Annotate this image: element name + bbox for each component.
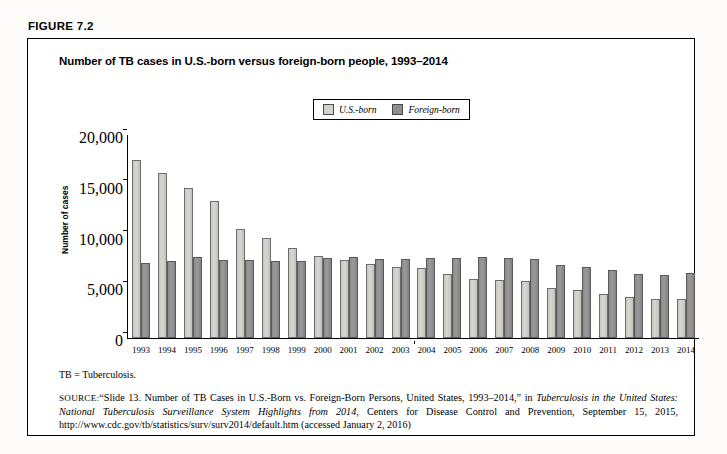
x-tick-label: 2009 <box>547 345 565 355</box>
x-tick-label: 2003 <box>392 345 410 355</box>
bar-foreign-born-1999 <box>297 261 306 338</box>
x-tick-2000: 2000 <box>310 341 336 355</box>
bar-foreign-born-2008 <box>530 259 539 338</box>
bar-group-2011 <box>595 135 621 338</box>
bar-group-1998 <box>258 135 284 338</box>
bar-us-born-2000 <box>314 256 323 338</box>
x-axis-line <box>127 338 699 339</box>
figure-frame: Number of TB cases in U.S.-born versus f… <box>27 38 695 436</box>
x-tick-1994: 1994 <box>154 341 180 355</box>
bar-foreign-born-1998 <box>271 261 280 338</box>
x-tick-label: 2008 <box>521 345 539 355</box>
bar-foreign-born-1994 <box>167 261 176 338</box>
x-tick-2001: 2001 <box>336 341 362 355</box>
x-tick-label: 2014 <box>677 345 695 355</box>
x-tick-label: 2002 <box>366 345 384 355</box>
bar-foreign-born-2001 <box>349 257 358 338</box>
bar-foreign-born-2014 <box>686 273 695 338</box>
x-tick-label: 2001 <box>340 345 358 355</box>
x-tick-label: 1997 <box>236 345 254 355</box>
x-tick-label: 2005 <box>443 345 461 355</box>
bar-foreign-born-2010 <box>582 267 591 338</box>
x-tick-2008: 2008 <box>517 341 543 355</box>
bar-foreign-born-1993 <box>141 263 150 338</box>
x-tick-mark <box>414 341 415 344</box>
bar-foreign-born-2012 <box>634 274 643 338</box>
x-tick-2014: 2014 <box>673 341 699 355</box>
x-tick-2007: 2007 <box>491 341 517 355</box>
bar-us-born-2004 <box>417 268 426 338</box>
bar-us-born-1996 <box>210 201 219 338</box>
bar-us-born-2008 <box>521 281 530 338</box>
x-tick-label: 2011 <box>599 345 617 355</box>
x-tick-label: 1999 <box>288 345 306 355</box>
bar-foreign-born-2009 <box>556 265 565 338</box>
bar-group-2014 <box>673 135 699 338</box>
x-tick-label: 2006 <box>469 345 487 355</box>
bar-us-born-2006 <box>469 279 478 338</box>
y-tick-label: 5,000 <box>87 281 123 298</box>
bar-foreign-born-2006 <box>478 257 487 338</box>
bar-group-2009 <box>543 135 569 338</box>
x-tick-1997: 1997 <box>232 341 258 355</box>
bar-group-1999 <box>284 135 310 338</box>
bar-foreign-born-2013 <box>660 275 669 338</box>
x-tick-label: 1994 <box>158 345 176 355</box>
bar-group-2001 <box>336 135 362 338</box>
figure-label: FIGURE 7.2 <box>28 20 94 32</box>
bar-us-born-2002 <box>366 264 375 338</box>
bar-group-1995 <box>180 135 206 338</box>
bar-us-born-2001 <box>340 260 349 338</box>
bar-us-born-2009 <box>547 288 556 338</box>
bar-group-1997 <box>232 135 258 338</box>
y-tick-label: 10,000 <box>79 231 123 248</box>
bar-group-2013 <box>647 135 673 338</box>
x-tick-2010: 2010 <box>569 341 595 355</box>
x-tick-label: 2012 <box>625 345 643 355</box>
bar-foreign-born-2005 <box>452 258 461 338</box>
x-tick-1995: 1995 <box>180 341 206 355</box>
y-tick-label: 0 <box>115 332 123 349</box>
bar-foreign-born-1995 <box>193 257 202 338</box>
bar-us-born-2011 <box>599 294 608 338</box>
bar-group-1993 <box>128 135 154 338</box>
x-tick-label: 1998 <box>262 345 280 355</box>
bar-foreign-born-2007 <box>504 258 513 338</box>
x-tick-label: 2007 <box>495 345 513 355</box>
bar-foreign-born-2002 <box>375 259 384 338</box>
bar-group-1994 <box>154 135 180 338</box>
bar-us-born-1995 <box>184 188 193 338</box>
chart-footnote: TB = Tuberculosis. <box>59 369 136 380</box>
y-tick-10000: 10,000 <box>68 231 123 243</box>
x-tick-label: 1996 <box>210 345 228 355</box>
bar-us-born-2010 <box>573 290 582 338</box>
x-tick-1999: 1999 <box>284 341 310 355</box>
bar-group-1996 <box>206 135 232 338</box>
figure-page: FIGURE 7.2 Number of TB cases in U.S.-bo… <box>0 0 727 454</box>
x-tick-label: 2004 <box>417 345 435 355</box>
x-tick-2011: 2011 <box>595 341 621 355</box>
x-tick-label: 1993 <box>132 345 150 355</box>
bar-us-born-1993 <box>132 160 141 338</box>
bar-group-2002 <box>362 135 388 338</box>
x-tick-2005: 2005 <box>439 341 465 355</box>
bar-group-2008 <box>517 135 543 338</box>
bar-us-born-2012 <box>625 297 634 338</box>
x-tick-1993: 1993 <box>128 341 154 355</box>
bar-group-2004 <box>413 135 439 338</box>
y-axis-ticks: 05,00010,00015,00020,000 <box>68 135 123 337</box>
bar-foreign-born-2003 <box>401 259 410 338</box>
y-tick-5000: 5,000 <box>68 281 123 293</box>
x-tick-2009: 2009 <box>543 341 569 355</box>
x-axis-ticks: 1993199419951996199719981999200020012002… <box>128 341 699 355</box>
x-tick-1998: 1998 <box>258 341 284 355</box>
bar-us-born-1999 <box>288 248 297 338</box>
bar-us-born-2014 <box>677 299 686 338</box>
x-tick-2002: 2002 <box>362 341 388 355</box>
bar-group-2010 <box>569 135 595 338</box>
y-tick-0: 0 <box>68 332 123 344</box>
bar-group-2003 <box>388 135 414 338</box>
x-tick-label: 1995 <box>184 345 202 355</box>
bar-group-2005 <box>439 135 465 338</box>
bar-us-born-2013 <box>651 299 660 338</box>
